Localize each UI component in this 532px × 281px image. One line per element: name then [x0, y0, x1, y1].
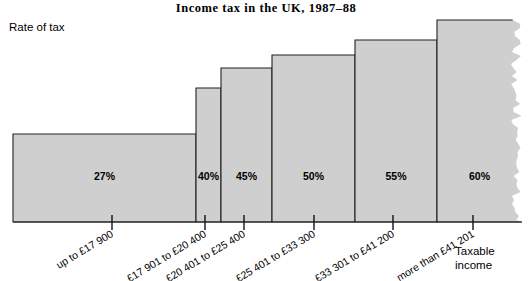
x-axis-tick-label: more than £41 201: [394, 227, 476, 281]
bar-value-label: 60%: [469, 170, 491, 182]
chart-figure: Income tax in the UK, 1987–88 Rate of ta…: [0, 0, 532, 281]
chart-plot-area: 27%40%45%50%55%60% up to £17 900£17 901 …: [0, 0, 532, 281]
bar: [196, 88, 221, 222]
bar: [355, 40, 437, 222]
bar-value-label: 55%: [385, 170, 407, 182]
x-axis-tick-label: up to £17 900: [54, 227, 115, 270]
x-axis-tick-label: £33 301 to £41 200: [312, 227, 396, 281]
x-axis-tick-label: £25 401 to £33 300: [233, 227, 317, 281]
bar: [272, 55, 355, 222]
bar-value-label: 50%: [303, 170, 325, 182]
bar-value-label: 40%: [198, 170, 220, 182]
x-axis-tick-labels: up to £17 900£17 901 to £20 400£20 401 t…: [54, 227, 476, 281]
bars-group: [13, 20, 522, 222]
bar: [221, 68, 272, 222]
bar-value-label: 27%: [94, 170, 116, 182]
bar-value-label: 45%: [236, 170, 258, 182]
bar-open-ended: [437, 20, 522, 222]
